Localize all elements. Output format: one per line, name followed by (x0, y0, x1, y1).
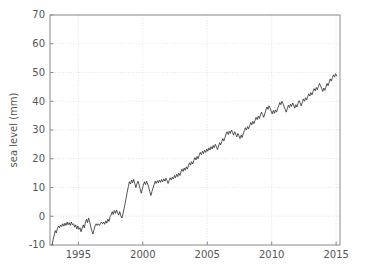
y-tick-label: 10 (32, 182, 45, 193)
y-tick-label: 50 (32, 67, 45, 78)
x-tick-label: 1995 (66, 249, 91, 260)
y-tick-label: 30 (32, 124, 45, 135)
y-axis-title: sea level (mm) (8, 92, 19, 167)
y-tick-label: -10 (29, 239, 45, 250)
sea-level-chart: 19952000200520102015 -10010203040506070 … (0, 0, 368, 271)
x-tick-label: 2010 (259, 249, 284, 260)
x-tick-label: 2005 (195, 249, 220, 260)
y-tick-label: 60 (32, 38, 45, 49)
y-tick-label: 20 (32, 153, 45, 164)
y-tick-label: 40 (32, 96, 45, 107)
x-tick-label: 2015 (323, 249, 348, 260)
x-tick-label: 2000 (130, 249, 155, 260)
chart-canvas: 19952000200520102015 -10010203040506070 … (0, 0, 368, 271)
y-tick-label: 0 (39, 211, 45, 222)
y-tick-label: 70 (32, 9, 45, 20)
